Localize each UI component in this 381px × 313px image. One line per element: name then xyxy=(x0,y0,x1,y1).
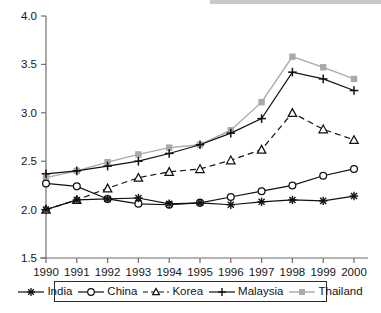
line-chart: 1.52.02.53.03.54.0 199019911992199319941… xyxy=(0,0,381,313)
legend-label-malaysia: Malaysia xyxy=(238,286,283,298)
x-axis-tick-labels: 1990199119921993199419951996199719981999… xyxy=(33,266,367,278)
y-axis xyxy=(41,16,46,258)
x-axis xyxy=(40,258,368,263)
series-markers xyxy=(42,109,358,214)
legend-label-thailand: Thailand xyxy=(318,286,362,298)
x-tick-label: 1993 xyxy=(126,266,152,278)
x-tick-label: 1995 xyxy=(187,266,213,278)
y-tick-label: 2.5 xyxy=(21,155,37,167)
chart-legend: India China Korea Malaysi xyxy=(54,281,327,302)
x-tick-label: 1990 xyxy=(33,266,59,278)
y-axis-tick-labels: 1.52.02.53.03.54.0 xyxy=(21,10,37,264)
y-tick-label: 3.0 xyxy=(21,107,37,119)
series-korea xyxy=(42,109,358,214)
x-tick-label: 1999 xyxy=(310,266,336,278)
legend-swatch-korea xyxy=(143,286,169,298)
legend-swatch-india xyxy=(18,286,44,298)
x-tick-label: 1996 xyxy=(218,266,244,278)
series-line xyxy=(46,57,354,178)
legend-label-india: India xyxy=(47,286,72,298)
legend-item-china[interactable]: China xyxy=(75,286,140,298)
x-tick-label: 2000 xyxy=(341,266,367,278)
legend-label-china: China xyxy=(107,286,137,298)
series-line xyxy=(46,72,354,174)
legend-item-korea[interactable]: Korea xyxy=(140,286,206,298)
legend-item-thailand[interactable]: Thailand xyxy=(286,286,365,298)
legend-label-korea: Korea xyxy=(172,286,203,298)
series-thailand xyxy=(43,53,357,180)
x-tick-label: 1992 xyxy=(95,266,121,278)
legend-swatch-thailand xyxy=(289,286,315,298)
series-markers xyxy=(43,53,357,180)
legend-swatch-china xyxy=(78,286,104,298)
series-line xyxy=(46,113,354,210)
plot-area: 1.52.02.53.03.54.0 199019911992199319941… xyxy=(0,0,381,313)
y-tick-label: 1.5 xyxy=(21,252,37,264)
y-tick-label: 2.0 xyxy=(21,204,37,216)
y-tick-label: 4.0 xyxy=(21,10,37,22)
x-tick-label: 1998 xyxy=(280,266,306,278)
x-tick-label: 1991 xyxy=(64,266,90,278)
legend-item-india[interactable]: India xyxy=(15,286,75,298)
series-layer xyxy=(42,53,359,213)
legend-item-malaysia[interactable]: Malaysia xyxy=(206,286,286,298)
x-tick-label: 1997 xyxy=(249,266,275,278)
legend-swatch-malaysia xyxy=(209,286,235,298)
y-tick-label: 3.5 xyxy=(21,58,37,70)
x-tick-label: 1994 xyxy=(156,266,182,278)
